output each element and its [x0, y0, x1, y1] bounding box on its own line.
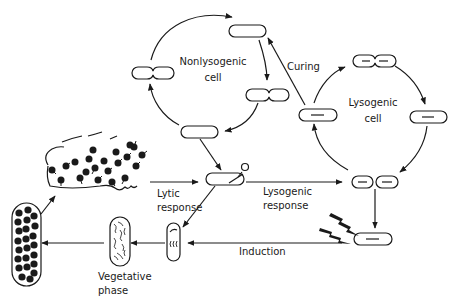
lyso-right-cell: [410, 111, 447, 123]
burst-cell: [12, 203, 41, 286]
lyso-top-dividing-cell: [353, 55, 396, 67]
vegetative-label-line1: Vegetative: [98, 271, 152, 283]
curing-label: Curing: [287, 61, 320, 73]
released-phages: [46, 132, 147, 190]
vegetative-label-line2: phase: [98, 285, 152, 297]
induction-label: Induction: [239, 246, 286, 258]
uv-lightning-icon: [319, 213, 359, 244]
lysogenic-response-label: Lysogenic response: [263, 186, 312, 212]
lysogenic-response-line1: Lysogenic: [263, 186, 312, 198]
lytic-label-line1: Lytic: [157, 188, 202, 200]
lysogenic-label-line1: Lysogenic: [345, 97, 401, 109]
lyso-bottom-pair: [352, 176, 398, 188]
lytic-label-line2: response: [157, 202, 202, 214]
lysogenic-label-line2: cell: [345, 113, 401, 125]
lyso-left-cell: [299, 109, 337, 121]
infected-cell: [206, 164, 249, 186]
nonlyso-right-dividing-cell: [246, 89, 289, 101]
nonlysogenic-label-line1: Nonlysogenic: [178, 56, 248, 68]
lytic-response-label: Lytic response: [157, 188, 202, 214]
early-lytic-cell: [167, 223, 180, 261]
nonlyso-top-cell: [229, 25, 266, 37]
induced-lysogen-cell: [354, 233, 392, 245]
lysogenic-response-line2: response: [263, 200, 312, 212]
nonlysogenic-cell-label: Nonlysogenic cell: [178, 56, 248, 84]
nonlyso-left-dividing-cell: [132, 67, 174, 79]
lysogenic-cell-label: Lysogenic cell: [345, 97, 401, 125]
vegetative-cell: [110, 217, 130, 266]
nonlyso-bottom-cell: [181, 126, 218, 138]
phage-life-cycle-diagram: [0, 0, 464, 306]
vegetative-phase-label: Vegetative phase: [98, 271, 152, 297]
nonlysogenic-label-line2: cell: [178, 72, 248, 84]
